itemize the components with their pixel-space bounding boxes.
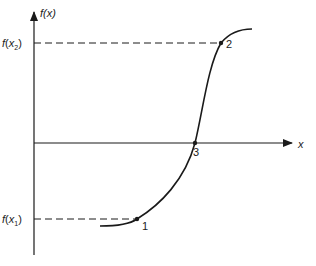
y-tick-label-f-x1: f(x1) xyxy=(2,213,22,227)
x-axis-label: x xyxy=(297,138,304,150)
point-1-label: 1 xyxy=(142,220,148,232)
point-3-label: 3 xyxy=(193,146,199,158)
point-2-marker xyxy=(219,41,223,45)
point-3-marker xyxy=(193,141,197,145)
y-tick-label-f-x2: f(x2) xyxy=(2,37,22,51)
y-axis-label: f(x) xyxy=(40,7,56,19)
point-1-marker xyxy=(135,217,139,221)
point-2-label: 2 xyxy=(226,38,232,50)
function-curve xyxy=(100,29,252,226)
sigmoid-root-diagram: f(x) x f(x2) f(x1) 1 2 3 xyxy=(0,0,316,266)
